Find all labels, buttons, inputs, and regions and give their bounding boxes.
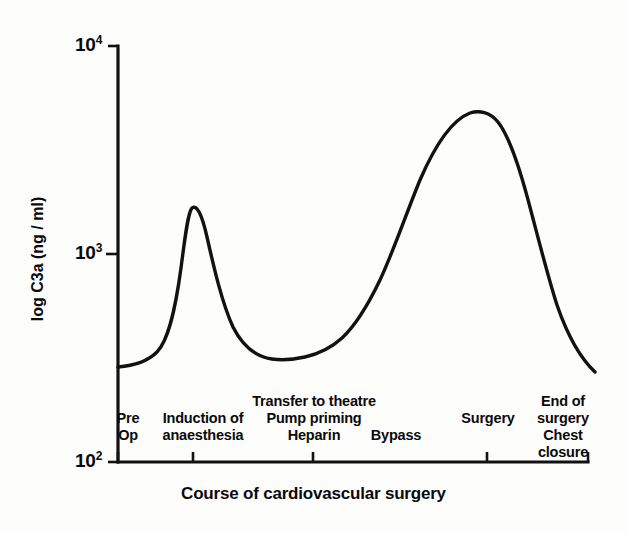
stage-line: Surgery: [450, 410, 526, 427]
stage-line: Chest: [527, 427, 599, 444]
stage-label-bypass: Bypass: [358, 427, 434, 444]
stage-line: anaesthesia: [148, 427, 258, 444]
stage-line: Op: [104, 427, 152, 444]
stage-label-surgery: Surgery: [450, 410, 526, 427]
c3a-curve: [118, 112, 595, 372]
x-axis-title: Course of cardiovascular surgery: [0, 484, 627, 504]
y-tick-label-10e4: 104: [48, 34, 102, 56]
y-tick-label-10e2: 102: [48, 450, 102, 472]
stage-line: Bypass: [358, 427, 434, 444]
y-axis-title: log C3a (ng / ml): [29, 159, 47, 359]
stage-line: Transfer to theatre: [243, 393, 385, 410]
stage-line: surgery: [527, 410, 599, 427]
stage-label-end-of-surgery: End of surgery Chest closure: [527, 393, 599, 461]
stage-label-pre-op: Pre Op: [104, 410, 152, 444]
stage-line: Pump priming: [243, 410, 385, 427]
y-tick-label-10e3: 103: [48, 242, 102, 264]
chart-figure: 104 103 102 log C3a (ng / ml) Pre Op Ind…: [0, 0, 627, 534]
stage-line: Induction of: [148, 410, 258, 427]
stage-line: Pre: [104, 410, 152, 427]
stage-line: End of: [527, 393, 599, 410]
stage-line: closure: [527, 444, 599, 461]
stage-label-induction: Induction of anaesthesia: [148, 410, 258, 444]
